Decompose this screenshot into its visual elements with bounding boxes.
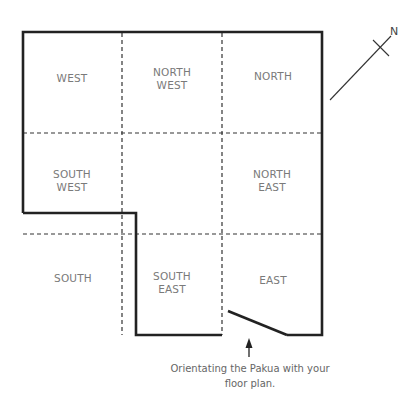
pointer-arrow bbox=[246, 338, 253, 357]
north-compass bbox=[330, 36, 391, 100]
caption-line-2: floor plan. bbox=[140, 376, 360, 391]
door-swing bbox=[228, 311, 287, 335]
label-west: WEST bbox=[57, 72, 88, 84]
compass-needle bbox=[330, 36, 391, 100]
compass-crossbar bbox=[373, 40, 389, 56]
label-south-west-1: SOUTH bbox=[53, 168, 91, 180]
label-south: SOUTH bbox=[54, 272, 92, 284]
diagram-caption: Orientating the Pakua with your floor pl… bbox=[140, 361, 360, 391]
label-south-west-2: WEST bbox=[57, 181, 88, 193]
floor-plan-diagram: WEST NORTH WEST NORTH SOUTH WEST NORTH E… bbox=[0, 0, 419, 400]
label-north: NORTH bbox=[254, 70, 292, 82]
label-north-west-1: NORTH bbox=[153, 66, 191, 78]
caption-line-1: Orientating the Pakua with your bbox=[140, 361, 360, 376]
label-south-east-1: SOUTH bbox=[153, 270, 191, 282]
arrow-head-icon bbox=[246, 338, 253, 348]
label-north-east-2: EAST bbox=[258, 181, 286, 193]
label-north-east-1: NORTH bbox=[253, 168, 291, 180]
label-south-east-2: EAST bbox=[158, 283, 186, 295]
label-east: EAST bbox=[259, 274, 287, 286]
compass-north-label: N bbox=[390, 25, 398, 38]
zone-labels: WEST NORTH WEST NORTH SOUTH WEST NORTH E… bbox=[53, 66, 292, 295]
label-north-west-2: WEST bbox=[157, 79, 188, 91]
